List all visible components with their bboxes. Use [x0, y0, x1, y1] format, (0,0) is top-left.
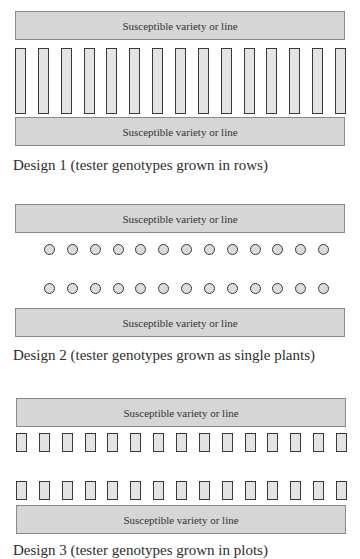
bar-label: Susceptible variety or line — [123, 407, 238, 419]
tester-single-plant — [318, 244, 329, 255]
tester-row-plot — [15, 48, 26, 114]
tester-small-plot — [290, 433, 301, 452]
tester-small-plot — [245, 481, 256, 500]
design3-top-susceptible-bar: Susceptible variety or line — [16, 398, 346, 427]
design1-tester-row — [0, 48, 360, 114]
tester-small-plot — [62, 481, 73, 500]
design1-top-susceptible-bar: Susceptible variety or line — [15, 11, 345, 40]
tester-single-plant — [250, 244, 261, 255]
tester-single-plant — [67, 244, 78, 255]
tester-small-plot — [130, 433, 141, 452]
tester-row-plot — [84, 48, 95, 114]
tester-single-plant — [227, 244, 238, 255]
tester-single-plant — [135, 283, 146, 294]
tester-small-plot — [107, 481, 118, 500]
tester-single-plant — [204, 283, 215, 294]
tester-single-plant — [113, 244, 124, 255]
tester-small-plot — [176, 433, 187, 452]
bar-label: Susceptible variety or line — [122, 213, 237, 225]
tester-single-plant — [90, 283, 101, 294]
tester-single-plant — [44, 244, 55, 255]
tester-small-plot — [39, 481, 50, 500]
tester-row-plot — [175, 48, 186, 114]
tester-row-plot — [38, 48, 49, 114]
tester-small-plot — [313, 481, 324, 500]
tester-single-plant — [158, 283, 169, 294]
tester-row-plot — [198, 48, 209, 114]
tester-small-plot — [85, 433, 96, 452]
design3-caption: Design 3 (tester genotypes grown in plot… — [13, 542, 268, 559]
tester-single-plant — [295, 283, 306, 294]
tester-row-plot — [266, 48, 277, 114]
tester-single-plant — [44, 283, 55, 294]
bar-label: Susceptible variety or line — [122, 20, 237, 32]
tester-small-plot — [313, 433, 324, 452]
design1-bottom-susceptible-bar: Susceptible variety or line — [15, 117, 345, 146]
design2-tester-row-2 — [0, 283, 360, 295]
tester-small-plot — [176, 481, 187, 500]
tester-small-plot — [39, 433, 50, 452]
tester-small-plot — [290, 481, 301, 500]
tester-small-plot — [130, 481, 141, 500]
tester-single-plant — [90, 244, 101, 255]
tester-small-plot — [62, 433, 73, 452]
design1-caption: Design 1 (tester genotypes grown in rows… — [13, 157, 268, 174]
bar-label: Susceptible variety or line — [122, 317, 237, 329]
tester-row-plot — [335, 48, 346, 114]
tester-row-plot — [61, 48, 72, 114]
bar-label: Susceptible variety or line — [123, 514, 238, 526]
tester-row-plot — [152, 48, 163, 114]
tester-row-plot — [129, 48, 140, 114]
tester-single-plant — [272, 244, 283, 255]
tester-small-plot — [222, 433, 233, 452]
tester-small-plot — [85, 481, 96, 500]
tester-small-plot — [16, 481, 27, 500]
tester-row-plot — [106, 48, 117, 114]
tester-small-plot — [153, 481, 164, 500]
tester-small-plot — [245, 433, 256, 452]
tester-row-plot — [244, 48, 255, 114]
tester-single-plant — [272, 283, 283, 294]
tester-small-plot — [16, 433, 27, 452]
tester-single-plant — [158, 244, 169, 255]
tester-row-plot — [289, 48, 300, 114]
tester-single-plant — [204, 244, 215, 255]
tester-single-plant — [181, 283, 192, 294]
tester-single-plant — [181, 244, 192, 255]
tester-small-plot — [267, 433, 278, 452]
bar-label: Susceptible variety or line — [122, 126, 237, 138]
tester-small-plot — [199, 481, 210, 500]
tester-row-plot — [221, 48, 232, 114]
tester-small-plot — [267, 481, 278, 500]
tester-single-plant — [67, 283, 78, 294]
tester-row-plot — [312, 48, 323, 114]
tester-small-plot — [222, 481, 233, 500]
tester-small-plot — [107, 433, 118, 452]
tester-single-plant — [227, 283, 238, 294]
design3-tester-row-1 — [0, 433, 360, 452]
tester-small-plot — [153, 433, 164, 452]
tester-single-plant — [250, 283, 261, 294]
design3-tester-row-2 — [0, 481, 360, 500]
tester-single-plant — [113, 283, 124, 294]
tester-small-plot — [199, 433, 210, 452]
tester-small-plot — [336, 433, 347, 452]
tester-small-plot — [336, 481, 347, 500]
tester-single-plant — [295, 244, 306, 255]
design2-bottom-susceptible-bar: Susceptible variety or line — [15, 308, 345, 337]
tester-single-plant — [135, 244, 146, 255]
design2-caption: Design 2 (tester genotypes grown as sing… — [13, 347, 315, 364]
design2-top-susceptible-bar: Susceptible variety or line — [15, 204, 345, 233]
design2-tester-row-1 — [0, 244, 360, 256]
design3-bottom-susceptible-bar: Susceptible variety or line — [16, 505, 346, 534]
tester-single-plant — [318, 283, 329, 294]
